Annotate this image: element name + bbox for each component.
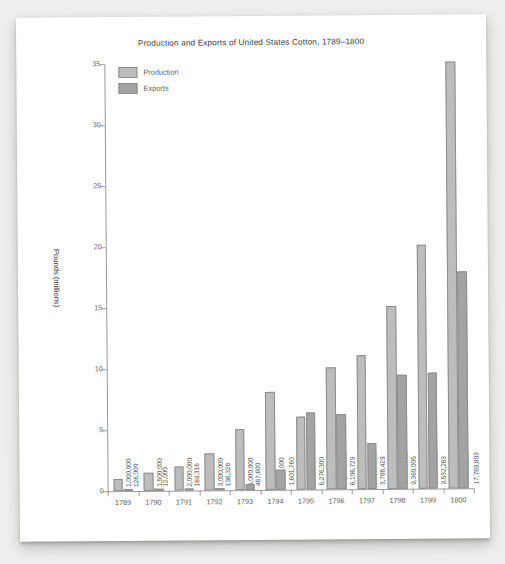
screenshot-scene: Production and Exports of United States …	[0, 0, 505, 564]
bar-exports-1789: 126,000	[123, 489, 133, 491]
bar-value-label: 189,316	[193, 475, 200, 498]
legend-item-production: Production	[118, 66, 178, 79]
bar-exports-1790: 12,000	[154, 489, 164, 491]
legend-label-production: Production	[143, 68, 178, 77]
bar-value-label: 3,788,429	[379, 471, 386, 499]
y-tick-label: 15	[94, 303, 102, 312]
chart-title: Production and Exports of United States …	[16, 36, 486, 49]
x-tick-mark	[169, 491, 170, 496]
bar-production-1796: 10,000,000	[326, 367, 336, 489]
bar-production-1791: 2,000,000	[174, 466, 184, 490]
x-tick-label-1792: 1792	[199, 497, 229, 506]
bar-value-label: 1,000,000	[125, 473, 132, 501]
legend-swatch-production	[118, 67, 137, 78]
bar-production-1789: 1,000,000	[113, 479, 123, 491]
bar-exports-1794: 1,601,760	[276, 470, 286, 490]
x-tick-label-1790: 1790	[138, 498, 168, 507]
bar-exports-1792: 138,328	[215, 488, 225, 490]
bar-production-1797: 11,000,000	[356, 355, 367, 489]
legend-swatch-exports	[118, 83, 137, 94]
bar-production-1790: 1,500,000	[144, 472, 154, 490]
x-tick-mark	[108, 491, 109, 496]
bar-value-label: 3,000,000	[216, 472, 223, 500]
bar-value-label: 12,000	[161, 477, 168, 497]
x-tick-label-1789: 1789	[108, 498, 138, 507]
bar-value-label: 487,600	[254, 474, 261, 497]
legend-item-exports: Exports	[118, 82, 178, 95]
x-tick-label-1794: 1794	[260, 497, 290, 506]
plot-region: 05101520253035 1789179017911792179317941…	[104, 61, 473, 491]
bar-exports-1799: 9,532,263	[427, 372, 437, 488]
bar-value-label: 6,276,300	[318, 471, 325, 499]
cotton-bar-chart: Production and Exports of United States …	[16, 14, 490, 542]
bar-value-label: 138,328	[224, 475, 231, 498]
chart-paper-sheet: Production and Exports of United States …	[16, 14, 490, 542]
y-axis-line	[104, 64, 108, 492]
bar-exports-1793: 487,600	[245, 484, 255, 490]
bar-exports-1796: 6,106,729	[336, 415, 346, 490]
bar-exports-1797: 3,788,429	[367, 443, 377, 489]
bar-production-1792: 3,000,000	[204, 454, 214, 491]
y-tick-label: 25	[93, 181, 101, 190]
bar-exports-1795: 6,276,300	[306, 413, 316, 490]
bar-exports-1791: 189,316	[184, 488, 194, 490]
y-axis-title: Pounds (millions)	[48, 65, 63, 492]
bar-production-1795: 6,000,000	[296, 416, 306, 489]
bar-production-1798: 15,000,000	[386, 306, 397, 489]
bar-value-label: 126,000	[132, 475, 139, 498]
x-tick-label-1791: 1791	[169, 497, 199, 506]
bar-production-1799: 20,000,000	[416, 245, 427, 489]
x-tick-label-1795: 1795	[291, 496, 321, 505]
y-tick-label: 5	[99, 425, 103, 434]
x-axis-ticks: 1789179017911792179317941795179617971798…	[104, 61, 470, 64]
y-tick-label: 20	[94, 242, 102, 251]
y-tick-label: 30	[93, 120, 101, 129]
bar-exports-1800: 17,789,803	[457, 271, 468, 488]
bar-production-1794: 8,000,000	[265, 392, 275, 490]
y-tick-label: 10	[95, 364, 103, 373]
bar-value-label: 2,000,000	[186, 472, 193, 500]
bar-value-label: 9,532,263	[440, 470, 447, 498]
x-tick-label-1793: 1793	[230, 497, 260, 506]
bar-value-label: 6,106,729	[348, 471, 355, 499]
y-tick-label: 35	[92, 59, 100, 68]
bar-exports-1798: 9,360,005	[397, 375, 407, 489]
legend-label-exports: Exports	[143, 84, 168, 93]
chart-legend: Production Exports	[118, 66, 179, 98]
bar-value-label: 9,360,005	[409, 470, 416, 498]
y-tick-label: 0	[100, 486, 104, 495]
bar-production-1793: 5,000,000	[235, 429, 245, 490]
bar-value-label: 1,601,760	[287, 471, 294, 499]
bar-group-container: 1,000,000126,0001,500,00012,0002,000,000…	[104, 61, 470, 64]
bar-value-label: 17,789,803	[472, 468, 479, 500]
y-axis-ticks: 05101520253035	[104, 61, 470, 64]
